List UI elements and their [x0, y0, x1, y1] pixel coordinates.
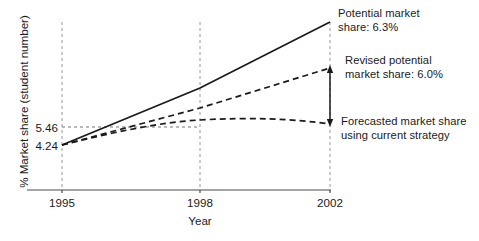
- y-axis-title: % Market share (student number): [17, 2, 30, 202]
- chart-container: Potential market share: 6.3% Revised pot…: [0, 0, 479, 241]
- annotation-forecasted-market-share: Forecasted market share using current st…: [341, 114, 467, 142]
- annotation-potential-market-share: Potential market share: 6.3%: [338, 6, 420, 34]
- x-tick-label-1995: 1995: [40, 196, 84, 209]
- x-axis-title: Year: [178, 214, 222, 227]
- x-tick-label-2002: 2002: [308, 196, 352, 209]
- annotation-revised-potential-market-share: Revised potential market share: 6.0%: [345, 53, 443, 81]
- series-revised-potential-market-share: [62, 68, 330, 145]
- series-forecasted-market-share: [62, 119, 330, 145]
- x-tick-label-1998: 1998: [178, 196, 222, 209]
- gap-arrow-annotation: [327, 65, 333, 127]
